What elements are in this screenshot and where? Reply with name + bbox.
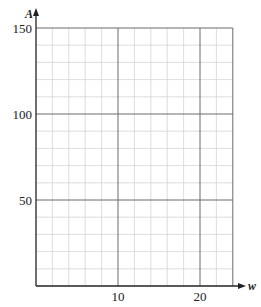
x-axis-label: w [248,279,257,293]
x-tick-20: 20 [194,289,207,304]
minor-gridlines [36,28,233,286]
y-axis-label: A [24,7,33,21]
blank-graph-grid: A w 150 100 50 10 20 [0,0,261,307]
y-tick-100: 100 [13,107,33,122]
x-tick-10: 10 [112,289,125,304]
y-axis-arrow-icon [33,8,39,16]
y-tick-150: 150 [13,21,33,36]
x-axis-arrow-icon [238,283,246,289]
y-tick-50: 50 [19,193,32,208]
